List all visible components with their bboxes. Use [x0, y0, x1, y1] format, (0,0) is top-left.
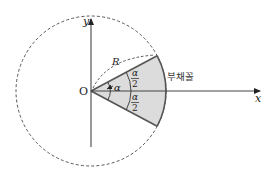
radius-label: R [111, 56, 120, 67]
origin-label: O [79, 85, 88, 98]
sector-label: 부채꼴 [167, 71, 194, 82]
fraction-upper-denominator: 2 [132, 79, 138, 89]
y-axis-label: y [82, 15, 90, 28]
fraction-upper-numerator: α [132, 68, 138, 78]
sector-diagram: y x O R α α 2 α 2 부채꼴 [0, 0, 275, 179]
alpha-label: α [114, 82, 121, 93]
fraction-lower-denominator: 2 [132, 103, 138, 113]
x-axis-label: x [255, 92, 262, 105]
fraction-lower-numerator: α [132, 92, 138, 102]
